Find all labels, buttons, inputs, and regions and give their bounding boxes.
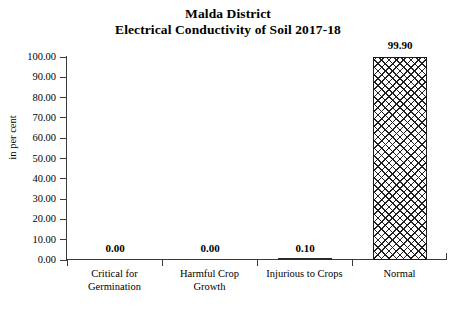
- bar-value-label: 0.10: [265, 243, 345, 254]
- x-axis-tick: [67, 260, 68, 266]
- y-axis-tick-label: 90.00: [0, 72, 60, 82]
- y-axis-tick-label: 0.00: [0, 255, 60, 265]
- y-axis-tick-label: 80.00: [0, 93, 60, 103]
- y-axis-tick: [60, 97, 66, 98]
- y-axis-tick: [60, 260, 66, 261]
- y-axis-tick: [60, 219, 66, 220]
- y-axis-tick-label: 100.00: [0, 52, 60, 62]
- category-label-line: Harmful Crop: [162, 268, 257, 281]
- y-axis-tick: [60, 158, 66, 159]
- plot-area: [67, 57, 447, 260]
- y-axis-tick: [60, 77, 66, 78]
- y-axis-tick: [60, 138, 66, 139]
- y-axis-tick-label: 60.00: [0, 133, 60, 143]
- category-label-line: Critical for: [67, 268, 162, 281]
- y-axis-tick-label: 70.00: [0, 113, 60, 123]
- y-axis-tick: [60, 178, 66, 179]
- y-axis-tick-label: 50.00: [0, 154, 60, 164]
- x-axis-category-label: Critical forGermination: [67, 268, 162, 293]
- x-axis-tick: [352, 260, 353, 266]
- y-axis-tick-label: 10.00: [0, 235, 60, 245]
- category-label-line: Injurious to Crops: [257, 268, 352, 281]
- x-axis-tick: [162, 260, 163, 266]
- x-axis-category-label: Harmful CropGrowth: [162, 268, 257, 293]
- y-axis-tick-label: 30.00: [0, 194, 60, 204]
- y-axis-tick: [60, 199, 66, 200]
- bar-value-label: 0.00: [170, 243, 250, 254]
- y-axis-tick: [60, 117, 66, 118]
- x-axis-category-label: Injurious to Crops: [257, 268, 352, 281]
- x-axis-tick: [257, 260, 258, 266]
- bar-value-label: 0.00: [75, 243, 155, 254]
- x-axis-category-label: Normal: [352, 268, 447, 281]
- bar: [278, 258, 332, 260]
- category-label-line: Germination: [67, 281, 162, 294]
- y-axis-tick: [60, 239, 66, 240]
- y-axis-tick-label: 40.00: [0, 174, 60, 184]
- category-label-line: Growth: [162, 281, 257, 294]
- bar: [373, 57, 427, 260]
- y-axis-tick-label: 20.00: [0, 214, 60, 224]
- y-axis-tick: [60, 57, 66, 58]
- bar-value-label: 99.90: [360, 40, 440, 51]
- bar-chart: in per cent 0.0010.0020.0030.0040.0050.0…: [0, 0, 456, 312]
- category-label-line: Normal: [352, 268, 447, 281]
